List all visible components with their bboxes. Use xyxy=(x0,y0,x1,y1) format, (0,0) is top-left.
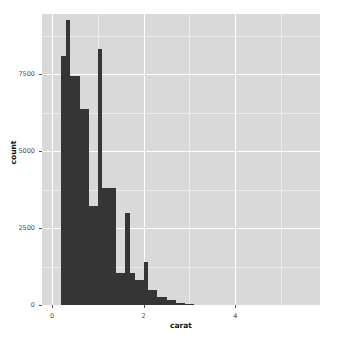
histogram-bars xyxy=(42,14,320,305)
y-axis: 0250050007500 xyxy=(0,0,42,340)
x-tick-mark xyxy=(52,305,53,308)
x-tick-label: 2 xyxy=(129,312,159,320)
y-axis-title: count xyxy=(9,123,18,183)
x-tick-label: 0 xyxy=(37,312,67,320)
x-axis-title: carat xyxy=(42,321,320,330)
y-tick-mark xyxy=(39,151,42,152)
histogram-plot: 0250050007500 024 carat count xyxy=(0,0,342,340)
x-tick-label: 4 xyxy=(220,312,250,320)
y-tick-mark xyxy=(39,74,42,75)
y-tick-label: 7500 xyxy=(18,70,35,78)
x-tick-mark xyxy=(235,305,236,308)
y-tick-label: 5000 xyxy=(18,147,35,155)
y-tick-label: 2500 xyxy=(18,224,35,232)
plot-panel xyxy=(42,14,320,305)
y-tick-mark xyxy=(39,228,42,229)
x-tick-mark xyxy=(144,305,145,308)
